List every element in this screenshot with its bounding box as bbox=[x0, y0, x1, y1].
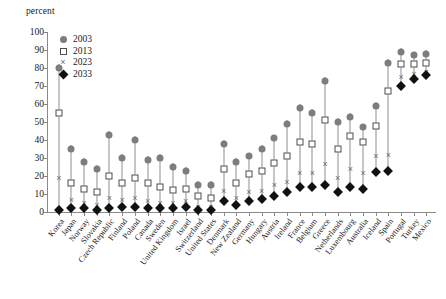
data-point-2023: × bbox=[219, 186, 228, 195]
data-point-2013 bbox=[334, 145, 341, 152]
legend-diamond-icon bbox=[57, 71, 69, 78]
data-point-2013 bbox=[296, 138, 303, 145]
data-point-2003 bbox=[258, 145, 265, 152]
data-point-2013 bbox=[195, 192, 202, 199]
data-point-2023: × bbox=[359, 168, 368, 177]
data-point-2013 bbox=[182, 185, 189, 192]
y-axis-tick-label: 80 bbox=[35, 63, 45, 73]
data-point-2023: × bbox=[295, 168, 304, 177]
data-point-2033 bbox=[333, 187, 343, 197]
legend-item-2033[interactable]: 2033 bbox=[57, 69, 129, 81]
data-point-2003 bbox=[207, 181, 214, 188]
data-point-2003 bbox=[245, 153, 252, 160]
data-point-2013 bbox=[309, 140, 316, 147]
data-point-2013 bbox=[360, 138, 367, 145]
data-point-2013 bbox=[423, 59, 430, 66]
data-point-2013 bbox=[119, 180, 126, 187]
data-point-2033 bbox=[371, 167, 381, 177]
x-axis-tick-mark bbox=[249, 212, 250, 216]
x-axis-tick-mark bbox=[109, 212, 110, 216]
legend-label: 2013 bbox=[73, 46, 92, 58]
y-axis-tick-label: 70 bbox=[35, 81, 45, 91]
data-point-2033 bbox=[282, 187, 292, 197]
x-axis-tick-mark bbox=[236, 212, 237, 216]
data-point-2013 bbox=[347, 133, 354, 140]
y-axis-tick-label: 90 bbox=[35, 45, 45, 55]
data-point-2013 bbox=[245, 171, 252, 178]
data-point-2033 bbox=[130, 202, 140, 212]
data-point-2003 bbox=[68, 145, 75, 152]
data-point-2033 bbox=[295, 182, 305, 192]
data-point-2003 bbox=[334, 118, 341, 125]
legend-circle-icon bbox=[57, 36, 69, 43]
data-point-2003 bbox=[233, 158, 240, 165]
x-axis-tick-mark bbox=[376, 212, 377, 216]
y-axis-tick-label: 60 bbox=[35, 99, 45, 109]
data-point-2013 bbox=[106, 172, 113, 179]
data-point-2003 bbox=[182, 167, 189, 174]
data-point-2003 bbox=[220, 140, 227, 147]
data-point-2003 bbox=[157, 154, 164, 161]
data-point-2003 bbox=[385, 59, 392, 66]
data-point-2023: × bbox=[130, 193, 139, 202]
legend-label: 2033 bbox=[73, 69, 92, 81]
data-point-2033 bbox=[219, 196, 229, 206]
legend-item-2003[interactable]: 2003 bbox=[57, 34, 129, 46]
x-axis-tick-mark bbox=[224, 212, 225, 216]
legend-label: 2003 bbox=[73, 34, 92, 46]
y-axis-tick-mark bbox=[44, 122, 48, 123]
data-point-2033 bbox=[358, 184, 368, 194]
y-axis-tick-mark bbox=[44, 86, 48, 87]
x-axis-tick-mark bbox=[338, 212, 339, 216]
data-point-2013 bbox=[207, 194, 214, 201]
chart-legend: 20032013×20232033 bbox=[57, 34, 129, 80]
chart-container: percent 0102030405060708090100×Korea×Jap… bbox=[0, 0, 446, 299]
x-axis-tick-mark bbox=[287, 212, 288, 216]
data-point-2013 bbox=[410, 61, 417, 68]
data-point-2003 bbox=[81, 158, 88, 165]
x-axis-tick-mark bbox=[122, 212, 123, 216]
y-axis-tick-label: 30 bbox=[35, 153, 45, 163]
data-point-2003 bbox=[423, 50, 430, 57]
x-axis-tick-mark bbox=[350, 212, 351, 216]
data-point-2033 bbox=[54, 205, 64, 215]
data-point-2013 bbox=[398, 61, 405, 68]
y-axis-tick-label: 50 bbox=[35, 117, 45, 127]
y-axis-tick-mark bbox=[44, 104, 48, 105]
data-point-2003 bbox=[106, 131, 113, 138]
x-axis-tick-mark bbox=[388, 212, 389, 216]
data-point-2003 bbox=[372, 102, 379, 109]
y-axis-tick-mark bbox=[44, 176, 48, 177]
data-point-2023: × bbox=[283, 177, 292, 186]
x-axis-tick-mark bbox=[414, 212, 415, 216]
data-point-2033 bbox=[67, 203, 77, 213]
data-point-2033 bbox=[269, 191, 279, 201]
data-point-2033 bbox=[105, 203, 115, 213]
y-axis-tick-label: 20 bbox=[35, 171, 45, 181]
data-point-2013 bbox=[385, 88, 392, 95]
y-axis-tick-mark bbox=[44, 212, 48, 213]
data-point-2003 bbox=[322, 77, 329, 84]
data-point-2023: × bbox=[105, 193, 114, 202]
x-axis-tick-mark bbox=[262, 212, 263, 216]
data-point-2003 bbox=[296, 104, 303, 111]
data-point-2013 bbox=[220, 165, 227, 172]
data-point-2003 bbox=[410, 52, 417, 59]
legend-item-2013[interactable]: 2013 bbox=[57, 46, 129, 58]
x-axis-tick-mark bbox=[325, 212, 326, 216]
legend-x-icon: × bbox=[57, 58, 69, 67]
y-axis-tick-mark bbox=[44, 140, 48, 141]
data-point-2013 bbox=[68, 180, 75, 187]
y-axis-title: percent bbox=[26, 6, 55, 16]
data-point-2033 bbox=[383, 166, 393, 176]
data-point-2013 bbox=[144, 180, 151, 187]
data-point-2013 bbox=[284, 153, 291, 160]
y-axis-tick-mark bbox=[44, 32, 48, 33]
data-point-2003 bbox=[309, 109, 316, 116]
data-point-2033 bbox=[345, 182, 355, 192]
data-point-2003 bbox=[360, 124, 367, 131]
data-point-2003 bbox=[195, 181, 202, 188]
data-point-2003 bbox=[144, 156, 151, 163]
legend-item-2023[interactable]: ×2023 bbox=[57, 57, 129, 69]
x-axis-tick-mark bbox=[312, 212, 313, 216]
